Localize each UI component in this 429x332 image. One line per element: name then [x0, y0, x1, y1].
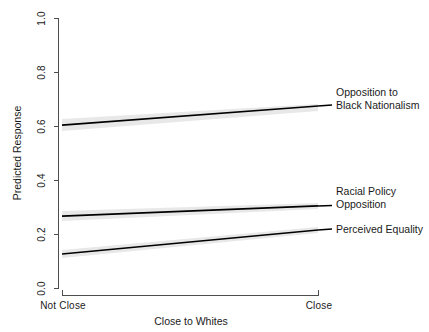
- x-axis-ticks: [63, 290, 319, 296]
- x-tick-label-not-close: Not Close: [30, 300, 96, 311]
- line-opposition-black-nationalism: [62, 106, 318, 125]
- chart-figure: 1.0 0.8 0.6 0.4 0.2 0.0 Predicted Respon…: [0, 0, 429, 332]
- series-label-opposition-black-nationalism: Opposition to Black Nationalism: [336, 86, 429, 111]
- chart-canvas: [0, 0, 429, 332]
- y-axis-ticks: [54, 19, 59, 289]
- y-tick-label-0.0: 0.0: [36, 276, 47, 302]
- y-tick-label-0.4: 0.4: [36, 168, 47, 194]
- x-tick-label-close: Close: [294, 300, 344, 311]
- connector-perceived-equality: [318, 229, 332, 230]
- label-connectors: [318, 105, 332, 230]
- x-axis-title: Close to Whites: [131, 315, 251, 327]
- series-label-perceived-equality: Perceived Equality: [336, 223, 429, 236]
- ci-band-racial-policy-opposition: [62, 203, 318, 221]
- line-perceived-equality: [62, 230, 318, 254]
- y-tick-label-0.6: 0.6: [36, 114, 47, 140]
- y-tick-label-0.8: 0.8: [36, 60, 47, 86]
- connector-opposition-black-nationalism: [318, 105, 332, 106]
- connector-racial-policy-opposition: [318, 206, 332, 207]
- confidence-bands: [62, 104, 318, 258]
- y-tick-label-1.0: 1.0: [36, 6, 47, 32]
- y-axis-title: Predicted Response: [11, 93, 23, 213]
- y-tick-label-0.2: 0.2: [36, 222, 47, 248]
- series-label-racial-policy-opposition: Racial Policy Opposition: [336, 185, 429, 210]
